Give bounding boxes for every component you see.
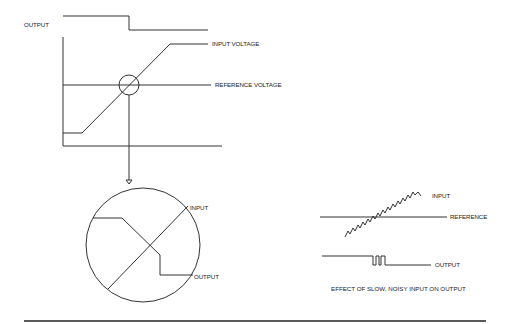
- magnified-output-label: OUTPUT: [194, 273, 219, 280]
- magnified-circle: [86, 188, 200, 302]
- top-graph: OUTPUT REFERENCE VOLTAGE INPUT VOLTAGE: [24, 16, 282, 184]
- magnified-input-label: INPUT: [190, 204, 208, 211]
- magnified-output-line: [93, 218, 193, 275]
- input-voltage-label: INPUT VOLTAGE: [212, 40, 259, 47]
- reference-voltage-label: REFERENCE VOLTAGE: [215, 81, 282, 88]
- noisy-output-waveform: [322, 256, 431, 265]
- comparator-diagram: OUTPUT REFERENCE VOLTAGE INPUT VOLTAGE I…: [0, 0, 508, 324]
- output-label: OUTPUT: [24, 21, 49, 28]
- zoom-detail: INPUT OUTPUT: [86, 188, 219, 302]
- arrow-down-icon: [126, 180, 132, 184]
- output-step-waveform: [63, 16, 208, 30]
- noisy-output-label: OUTPUT: [435, 261, 460, 268]
- noisy-input-label: INPUT: [432, 192, 450, 199]
- noisy-input-example: REFERENCE INPUT OUTPUT EFFECT OF SLOW, N…: [320, 192, 487, 292]
- noisy-input-zigzag: [345, 192, 421, 237]
- noisy-example-caption: EFFECT OF SLOW, NOISY INPUT ON OUTPUT: [331, 285, 466, 292]
- input-voltage-ramp: [63, 44, 208, 133]
- noisy-reference-label: REFERENCE: [450, 213, 487, 220]
